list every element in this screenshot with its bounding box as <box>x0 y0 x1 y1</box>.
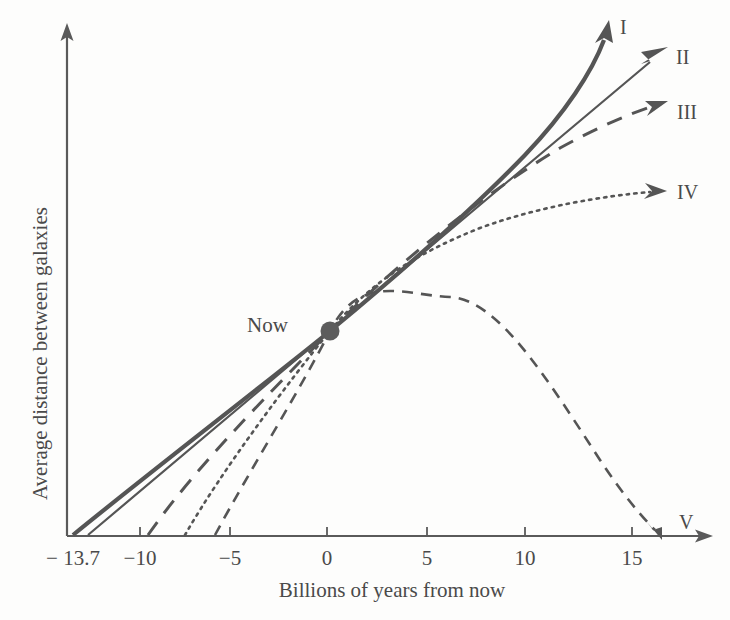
x-tick-label-5: 5 <box>397 546 457 571</box>
curve-IV-arrowhead <box>644 183 667 199</box>
curve-III-arrowhead <box>645 101 668 116</box>
expansion-chart-svg <box>0 0 730 620</box>
curve-II-arrowhead <box>641 47 668 64</box>
x-tick-label-0: 0 <box>297 546 357 571</box>
x-tick-label-15: 15 <box>599 546 665 571</box>
now-marker-dot <box>321 322 340 341</box>
curve-IV-path <box>185 192 650 535</box>
x-axis-title: Billions of years from now <box>182 578 602 603</box>
curve-label-IV: IV <box>677 181 698 204</box>
now-label: Now <box>247 313 288 338</box>
x-tick-label--10: −10 <box>104 546 176 571</box>
x-tick-label-10: 10 <box>492 546 558 571</box>
curve-I-path <box>73 40 604 535</box>
y-axis-title: Average distance between galaxies <box>28 207 53 500</box>
curve-V-arrowhead <box>647 522 662 540</box>
curve-label-I: I <box>620 16 627 39</box>
x-tick-label--5: −5 <box>196 546 264 571</box>
curve-label-V: V <box>679 511 693 534</box>
figure-container: − 13.7 −10 −5 0 5 10 15 Billions of year… <box>0 0 730 620</box>
curve-label-II: II <box>676 46 689 69</box>
curve-I-group <box>73 20 613 535</box>
x-axis-ticks <box>140 527 632 536</box>
curve-label-III: III <box>677 101 697 124</box>
curve-IV-group <box>185 183 667 535</box>
curve-I-arrowhead <box>595 20 613 43</box>
curve-III-path <box>148 107 650 535</box>
